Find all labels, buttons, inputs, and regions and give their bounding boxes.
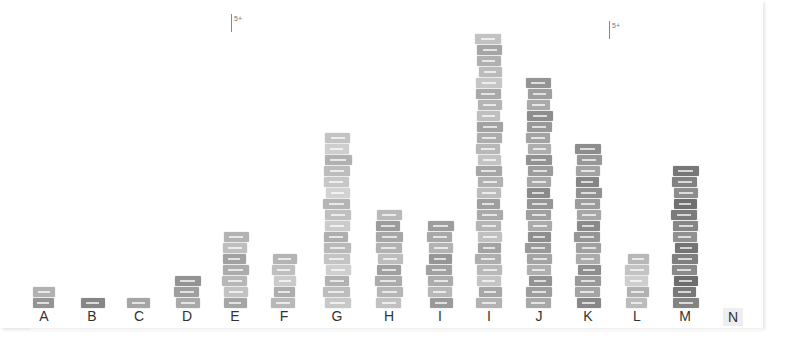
paper-slip — [324, 232, 348, 242]
paper-slip — [376, 243, 402, 253]
paper-slip — [273, 254, 297, 264]
paper-slip — [527, 199, 553, 209]
paper-slip — [675, 243, 698, 253]
category-label: G — [325, 308, 349, 324]
paper-slip — [223, 254, 246, 264]
paper-slip — [478, 177, 503, 187]
paper-bottom-edge — [30, 328, 763, 330]
paper-slip — [575, 199, 600, 209]
paper-slip — [477, 265, 502, 275]
category-label: N — [723, 308, 743, 326]
paper-slip — [476, 144, 500, 154]
paper-slip — [377, 287, 403, 297]
paper-slip — [224, 298, 247, 308]
paper-slip — [673, 221, 698, 231]
paper-slip — [628, 254, 649, 264]
bar-column-f — [273, 253, 295, 308]
paper-slip — [477, 122, 503, 132]
paper-slip — [527, 188, 550, 198]
paper-slip — [672, 265, 697, 275]
paper-slip — [576, 254, 600, 264]
category-label: A — [32, 308, 56, 324]
paper-slip — [626, 298, 647, 308]
marker-text: 5+ — [612, 22, 620, 29]
bar-column-i — [477, 33, 501, 308]
bar-column-g — [325, 132, 350, 308]
paper-slip — [81, 298, 105, 308]
paper-slip — [526, 210, 551, 220]
paper-slip — [576, 177, 599, 187]
paper-slip — [33, 287, 55, 297]
paper-slip — [528, 166, 553, 176]
paper-slip — [576, 166, 600, 176]
tick-mark-icon — [231, 14, 232, 32]
paper-slip — [576, 188, 602, 198]
category-label: I — [477, 308, 501, 324]
bar-column-h — [377, 209, 402, 308]
paper-slip — [526, 155, 552, 165]
paper-slip — [429, 243, 453, 253]
paper-slip — [426, 265, 452, 275]
paper-slip — [325, 298, 351, 308]
paper-slip — [577, 155, 602, 165]
paper-slip — [377, 210, 402, 220]
paper-slip — [527, 177, 551, 187]
paper-slip — [674, 199, 697, 209]
paper-slip — [376, 298, 401, 308]
paper-slip — [525, 243, 551, 253]
paper-slip — [528, 221, 552, 231]
paper-slip — [477, 111, 500, 121]
category-label: H — [377, 308, 401, 324]
paper-slip — [427, 232, 452, 242]
paper-slip — [326, 265, 351, 275]
paper-slip — [478, 100, 502, 110]
paper-slip — [478, 155, 501, 165]
paper-slip — [478, 243, 501, 253]
paper-slip — [673, 298, 699, 308]
paper-slip — [526, 287, 552, 297]
paper-slip — [526, 298, 551, 308]
paper-slip — [574, 232, 600, 242]
bar-column-m — [673, 165, 697, 308]
paper-slip — [325, 133, 350, 143]
paper-slip — [376, 232, 403, 242]
paper-slip — [324, 177, 349, 187]
paper-slip — [674, 276, 698, 286]
bar-column-e — [223, 231, 247, 308]
paper-slip — [274, 287, 295, 297]
paper-slip — [528, 89, 552, 99]
paper-slip — [224, 232, 249, 242]
paper-slip — [127, 298, 150, 308]
paper-slip — [672, 177, 697, 187]
paper-slip — [527, 100, 550, 110]
paper-slip — [477, 56, 501, 66]
paper-slip — [174, 287, 199, 297]
category-label: F — [272, 308, 296, 324]
marker-text: 5+ — [234, 15, 242, 22]
paper-slip — [429, 254, 452, 264]
bar-column-l — [626, 253, 648, 308]
paper-slip — [476, 89, 501, 99]
bar-column-j — [527, 77, 551, 308]
paper-slip — [272, 265, 295, 275]
paper-slip — [526, 133, 550, 143]
paper-slip — [325, 221, 350, 231]
paper-slip — [529, 276, 552, 286]
paper-slip — [323, 199, 350, 209]
category-label: D — [175, 308, 199, 324]
threshold-marker: 5+ — [609, 21, 620, 39]
paper-slip — [33, 298, 54, 308]
paper-slip — [673, 232, 697, 242]
paper-slip — [577, 221, 600, 231]
category-label: E — [223, 308, 247, 324]
paper-slip — [375, 276, 402, 286]
paper-slip — [476, 298, 502, 308]
paper-slip — [325, 210, 351, 220]
paper-slip — [526, 78, 551, 88]
paper-slip — [477, 45, 502, 55]
category-label: M — [673, 308, 697, 324]
paper-slip — [479, 67, 502, 77]
paper-slip — [477, 133, 502, 143]
category-label: C — [127, 308, 151, 324]
paper-slip — [625, 276, 648, 286]
